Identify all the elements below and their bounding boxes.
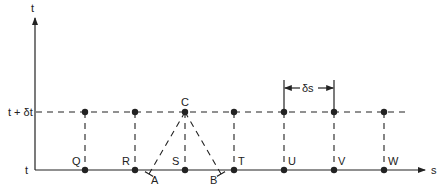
point-label-v: V xyxy=(338,155,346,167)
apex-label-c: C xyxy=(181,96,189,108)
point-label-r: R xyxy=(122,155,130,167)
t-axis: t xyxy=(31,2,35,170)
t-axis-label: t xyxy=(31,2,34,14)
foot-label-b: B xyxy=(210,174,217,186)
point-label-u: U xyxy=(288,155,296,167)
spacing-bracket: δs xyxy=(284,80,334,112)
foot-label-a: A xyxy=(151,174,159,186)
point-label-t: T xyxy=(238,155,245,167)
spacing-label: δs xyxy=(302,82,314,94)
characteristic-lines xyxy=(149,112,221,174)
point-label-q: Q xyxy=(72,155,81,167)
point-label-w: W xyxy=(388,155,399,167)
point-label-s: S xyxy=(172,155,179,167)
time-level-t: t xyxy=(25,164,28,176)
time-level-t-plus-dt: t + δt xyxy=(8,106,33,118)
characteristics-grid-diagram: t s t t + δt xyxy=(0,0,445,191)
s-axis-label: s xyxy=(431,164,437,176)
